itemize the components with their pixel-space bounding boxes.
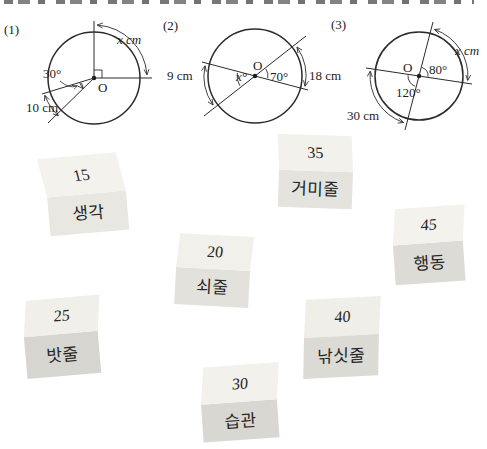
diagram-2: (2) O x° 70° 9 cm 18 cm bbox=[163, 18, 341, 123]
angle-label-120: 120° bbox=[396, 85, 421, 100]
block-word: 생각 bbox=[72, 204, 105, 224]
angle-label-80: 80° bbox=[429, 62, 447, 77]
problem-1-label: (1) bbox=[4, 22, 19, 37]
problem-2-label: (2) bbox=[163, 18, 178, 33]
answer-block-40: 40 낚싯줄 bbox=[302, 296, 381, 379]
arc-label-18cm: 18 cm bbox=[309, 68, 341, 83]
block-word: 습관 bbox=[224, 411, 257, 430]
answer-block-25: 25 밧줄 bbox=[21, 295, 102, 379]
block-number: 45 bbox=[420, 216, 437, 233]
block-number: 35 bbox=[307, 145, 324, 162]
block-word: 낚싯줄 bbox=[317, 347, 365, 367]
answer-block-30: 30 습관 bbox=[198, 362, 279, 442]
center-dot bbox=[417, 74, 421, 78]
block-word: 밧줄 bbox=[46, 345, 79, 365]
center-label-2: O bbox=[253, 58, 262, 73]
angle-label-30: 30° bbox=[43, 66, 61, 81]
block-number: 25 bbox=[53, 307, 70, 325]
angle-label-70: 70° bbox=[270, 69, 288, 84]
arc-label-9cm: 9 cm bbox=[167, 68, 193, 83]
arc-label-xcm-3: x cm bbox=[454, 43, 479, 58]
angle-arc-70 bbox=[266, 69, 268, 78]
problem-3-label: (3) bbox=[331, 17, 346, 32]
center-dot bbox=[253, 74, 257, 78]
angle-arc-30 bbox=[80, 82, 83, 88]
center-label-1: O bbox=[98, 80, 107, 95]
center-label-3: O bbox=[403, 60, 412, 75]
block-number: 20 bbox=[206, 244, 224, 261]
block-word: 거미줄 bbox=[291, 180, 340, 199]
diagram-3: (3) O 80° 120° x cm 30 cm bbox=[331, 17, 479, 130]
answer-block-15: 15 생각 bbox=[44, 152, 129, 237]
block-number: 30 bbox=[232, 375, 249, 392]
worksheet-page: (1) O 30° 10 cm x cm (2) O x° bbox=[0, 0, 487, 449]
angle-arc-80 bbox=[422, 68, 428, 77]
answer-block-45: 45 행동 bbox=[390, 205, 465, 286]
block-word: 행동 bbox=[413, 253, 446, 272]
arc-label-10cm: 10 cm bbox=[26, 100, 58, 115]
diagram-1: (1) O 30° 10 cm x cm bbox=[4, 21, 152, 124]
block-word: 쇠줄 bbox=[196, 278, 229, 297]
circle-diagrams: (1) O 30° 10 cm x cm (2) O x° bbox=[0, 2, 487, 147]
block-number: 40 bbox=[334, 308, 351, 325]
answer-block-20: 20 쇠줄 bbox=[174, 233, 252, 308]
answer-block-35: 35 거미줄 bbox=[278, 134, 355, 210]
arc-label-xcm: x cm bbox=[116, 32, 141, 47]
arc-label-30cm: 30 cm bbox=[347, 108, 379, 123]
angle-label-x: x° bbox=[235, 69, 247, 84]
block-number: 15 bbox=[71, 166, 91, 183]
